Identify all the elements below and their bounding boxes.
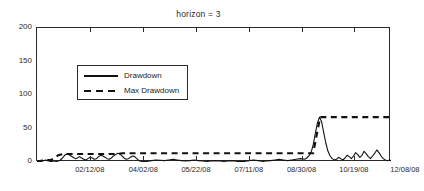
x-tick-mark bbox=[90, 156, 91, 161]
legend-item-max-drawdown: Max Drawdown bbox=[78, 83, 189, 98]
legend-solid-line-icon bbox=[84, 71, 118, 81]
x-tick-mark bbox=[196, 27, 197, 32]
x-tick-label: 08/30/08 bbox=[274, 165, 330, 174]
y-axis-tick-labels: 200 150 100 50 0 bbox=[0, 27, 32, 161]
plot-area: Drawdown Max Drawdown bbox=[36, 27, 390, 161]
x-tick-mark bbox=[90, 27, 91, 32]
x-tick-label: 07/11/08 bbox=[221, 165, 277, 174]
chart-legend: Drawdown Max Drawdown bbox=[77, 65, 188, 100]
legend-label: Drawdown bbox=[124, 71, 162, 80]
y-tick-label: 100 bbox=[2, 89, 32, 98]
y-tick-label: 150 bbox=[2, 56, 32, 65]
x-tick-mark bbox=[354, 27, 355, 32]
y-tick-label: 200 bbox=[2, 22, 32, 31]
legend-dashed-line-icon bbox=[84, 86, 118, 96]
x-tick-mark bbox=[249, 156, 250, 161]
y-tick-label: 50 bbox=[2, 123, 32, 132]
y-tick-label: 0 bbox=[2, 156, 32, 165]
x-tick-mark bbox=[354, 156, 355, 161]
x-tick-mark bbox=[196, 156, 197, 161]
x-tick-mark bbox=[143, 27, 144, 32]
x-tick-label: 02/12/08 bbox=[62, 165, 118, 174]
legend-item-drawdown: Drawdown bbox=[78, 68, 189, 83]
x-tick-label: 04/02/08 bbox=[115, 165, 171, 174]
x-tick-label: 12/08/08 bbox=[377, 165, 424, 174]
x-tick-label: 10/19/08 bbox=[326, 165, 382, 174]
x-tick-mark bbox=[302, 27, 303, 32]
x-tick-label: 05/22/08 bbox=[168, 165, 224, 174]
chart-title: horizon = 3 bbox=[0, 9, 397, 19]
legend-label: Max Drawdown bbox=[124, 86, 179, 95]
x-tick-mark bbox=[143, 156, 144, 161]
x-tick-mark bbox=[302, 156, 303, 161]
x-tick-mark bbox=[249, 27, 250, 32]
